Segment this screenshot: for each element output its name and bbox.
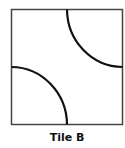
figure-caption: Tile B bbox=[0, 131, 125, 144]
tile-border bbox=[12, 10, 123, 125]
arc-top-right bbox=[67, 10, 123, 68]
arc-bottom-left bbox=[12, 67, 68, 125]
tile-b-diagram bbox=[0, 0, 125, 148]
